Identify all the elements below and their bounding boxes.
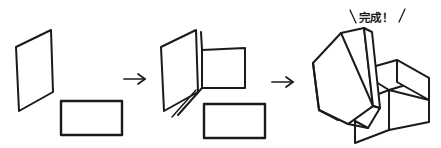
- fold-edge-upper: [201, 32, 202, 50]
- step-3-group: [313, 28, 429, 143]
- instruction-diagram: 完成！: [0, 0, 441, 148]
- caption-label: 完成！: [359, 11, 393, 25]
- parallelogram-panel: [16, 30, 53, 111]
- caption-right-slash-icon: [399, 9, 405, 22]
- step-1-group: [16, 30, 122, 135]
- step-2-group: [161, 30, 265, 138]
- caption-left-slash-icon: [350, 10, 356, 23]
- step-1-to-2-arrow: [124, 74, 145, 84]
- completion-caption: 完成！: [350, 9, 405, 25]
- folded-flap: [202, 48, 245, 88]
- diagram-canvas: 完成！: [0, 0, 441, 148]
- step-2-to-3-arrow: [272, 77, 293, 87]
- rectangle-panel: [204, 104, 265, 138]
- rectangle-panel: [61, 101, 122, 135]
